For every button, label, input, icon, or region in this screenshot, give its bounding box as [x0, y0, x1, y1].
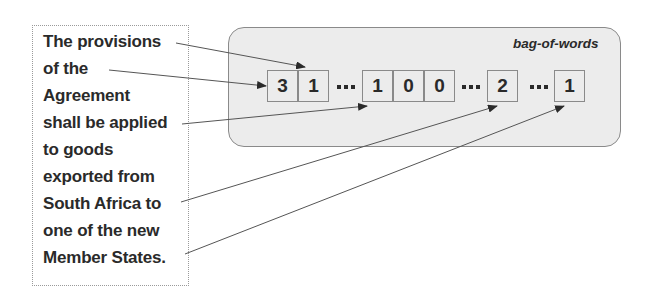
arrow-the	[109, 70, 266, 86]
arrow-provisions	[176, 43, 305, 67]
arrow-africa	[181, 106, 497, 202]
mapping-arrows	[0, 0, 653, 304]
arrow-applied	[182, 106, 367, 124]
arrow-states	[185, 106, 564, 254]
